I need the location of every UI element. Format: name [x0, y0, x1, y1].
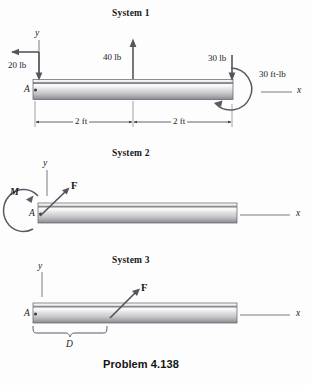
system2-x-axis-label: x [296, 208, 300, 218]
system1-load-30lb-label: 30 lb [208, 53, 226, 63]
system3-origin-dot [34, 313, 37, 316]
system3-y-axis-label: y [38, 261, 42, 271]
system3-dimension-brace [33, 326, 107, 337]
system2-moment-label: M [10, 186, 19, 197]
system2-beam [38, 203, 237, 223]
system1-origin-dot [34, 89, 37, 92]
system2-y-axis-label: y [43, 158, 47, 168]
system2-title: System 2 [112, 148, 150, 158]
system3-force-label: F [141, 282, 147, 293]
system3-dimension-label: D [66, 339, 73, 349]
figure-caption: Problem 4.138 [103, 358, 179, 370]
problem-figure: System 1 y x A 20 lb 40 lb 30 lb 30 ft-l… [0, 0, 311, 385]
system2-force-label: F [71, 180, 77, 191]
system1-couple-label: 30 ft-lb [259, 69, 286, 79]
system2-origin-label: A [29, 208, 35, 218]
figure-linework [0, 0, 311, 385]
system1-title: System 1 [112, 8, 150, 18]
system1-load-40lb-label: 40 lb [103, 52, 121, 62]
system1-dimension-label-1: 2 ft [73, 116, 89, 126]
system3-beam [33, 303, 237, 323]
system1-y-axis-label: y [35, 28, 39, 38]
system1-origin-label: A [24, 84, 30, 94]
system3-x-axis-label: x [296, 308, 300, 318]
system1-load-20lb-label: 20 lb [8, 60, 26, 70]
system1-load-40lb-arrow [130, 39, 137, 80]
system3-origin-label: A [24, 308, 30, 318]
system1-dimension-lines [35, 101, 232, 127]
system1-x-axis-label: x [297, 85, 301, 95]
system1-beam [33, 80, 233, 100]
system3-title: System 3 [112, 255, 150, 265]
system1-dimension-label-2: 2 ft [171, 116, 187, 126]
